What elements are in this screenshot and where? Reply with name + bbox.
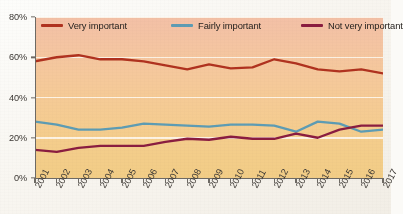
y-axis: 0%20%40%60%80% [0,0,35,195]
series-lines [35,17,383,178]
y-tick-label: 20% [9,133,27,143]
x-axis: 2001200220032004200520062007200820092010… [35,178,383,214]
legend-swatch-icon [41,24,63,27]
legend-item-fairly-important[interactable]: Fairly important [171,20,261,31]
plot-area [35,17,383,178]
legend-label: Not very important [328,20,403,31]
legend-label: Very important [68,20,127,31]
legend-swatch-icon [301,24,323,27]
y-tick-label: 40% [9,93,27,103]
y-tick-label: 60% [9,52,27,62]
legend-label: Fairly important [198,20,261,31]
series-line-fairly-important [35,122,383,132]
y-axis-line [35,17,36,178]
legend-swatch-icon [171,24,193,27]
series-line-very-important [35,55,383,73]
legend-item-very-important[interactable]: Very important [41,20,127,31]
x-tick-label: 2017 [381,167,399,189]
legend-item-not-very-important[interactable]: Not very important [301,20,403,31]
chart-legend: Very importantFairly importantNot very i… [35,17,383,34]
y-tick-label: 0% [14,173,27,183]
y-tick-label: 80% [9,12,27,22]
